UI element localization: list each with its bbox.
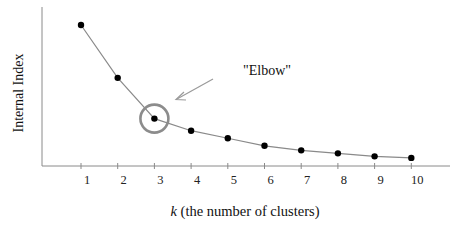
data-point [78,22,84,28]
x-tick-label: 1 [84,173,90,187]
x-tick-label: 6 [267,173,273,187]
x-tick-label: 4 [194,173,201,187]
data-point [261,143,267,149]
elbow-chart: 12345678910 [0,0,466,231]
data-point [188,128,194,134]
data-point [225,135,231,141]
elbow-arrow-icon [176,79,213,100]
x-tick-label: 7 [304,173,310,187]
elbow-annotation: "Elbow" [243,63,291,79]
x-tick-label: 2 [121,173,127,187]
data-points [78,22,415,161]
data-point [371,153,377,159]
x-tick-label: 8 [341,173,347,187]
x-tick-labels: 12345678910 [84,173,424,187]
series-line [81,25,411,158]
data-point [408,155,414,161]
x-tick-label: 10 [411,173,424,187]
data-point [115,75,121,81]
x-tick-label: 5 [231,173,237,187]
data-point [151,115,157,121]
data-point [298,147,304,153]
x-tick-label: 9 [377,173,383,187]
x-axis-label-text: (the number of clusters) [177,203,320,219]
x-tick-label: 3 [157,173,163,187]
data-point [335,150,341,156]
y-axis-label: Internal Index [11,54,27,133]
x-axis-label: k (the number of clusters) [171,203,320,220]
